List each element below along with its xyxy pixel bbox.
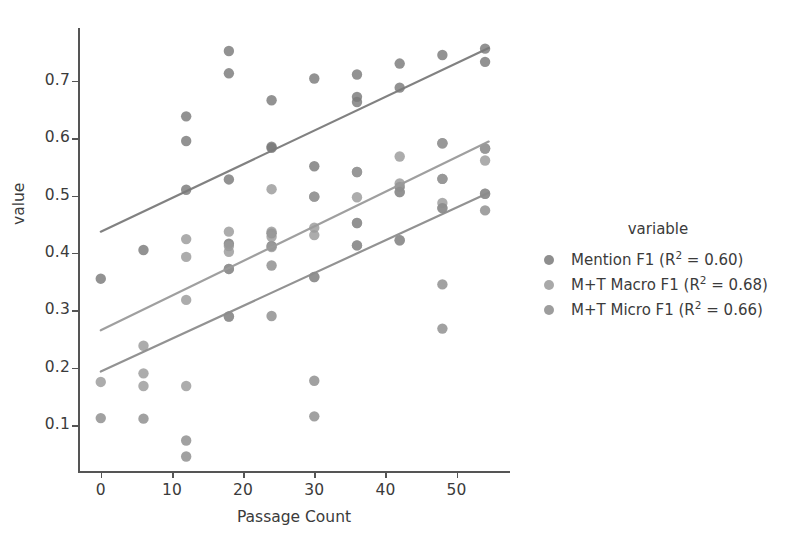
trend-line — [101, 48, 489, 232]
legend: variable Mention F1 (R2 = 0.60)M+T Macro… — [536, 220, 776, 322]
legend-item-1[interactable]: M+T Macro F1 (R2 = 0.68) — [536, 272, 776, 297]
data-point — [437, 138, 447, 148]
data-point — [181, 234, 191, 244]
legend-item-label: M+T Micro F1 (R2 = 0.66) — [571, 301, 763, 319]
data-point — [309, 73, 319, 83]
data-point — [224, 174, 234, 184]
data-point — [352, 167, 362, 177]
x-tick-label: 50 — [427, 481, 487, 499]
legend-marker-icon — [544, 305, 554, 315]
y-tick-label: 0.2 — [10, 358, 70, 376]
legend-item-0[interactable]: Mention F1 (R2 = 0.60) — [536, 247, 776, 272]
y-tick-label: 0.5 — [10, 186, 70, 204]
data-point — [224, 46, 234, 56]
legend-marker-icon — [544, 280, 554, 290]
x-tick-label: 0 — [71, 481, 131, 499]
data-point — [266, 232, 276, 242]
data-point — [266, 184, 276, 194]
y-tick-label: 0.6 — [10, 128, 70, 146]
data-point — [138, 368, 148, 378]
x-tick-mark — [172, 472, 174, 478]
x-tick-mark — [314, 472, 316, 478]
data-point — [138, 381, 148, 391]
data-point — [266, 260, 276, 270]
trend-line — [101, 142, 489, 331]
y-tick-label: 0.3 — [10, 300, 70, 318]
data-point — [181, 381, 191, 391]
data-point — [181, 435, 191, 445]
x-tick-label: 20 — [213, 481, 273, 499]
data-point — [352, 218, 362, 228]
data-point — [138, 413, 148, 423]
data-point — [309, 376, 319, 386]
x-tick-mark — [457, 472, 459, 478]
data-point — [309, 191, 319, 201]
x-tick-label: 10 — [142, 481, 202, 499]
plot-area — [78, 28, 510, 472]
y-tick-label: 0.4 — [10, 243, 70, 261]
x-tick-label: 40 — [355, 481, 415, 499]
data-point — [96, 273, 106, 283]
data-point — [224, 247, 234, 257]
data-point — [266, 95, 276, 105]
data-point — [309, 411, 319, 421]
data-point — [352, 97, 362, 107]
data-point — [437, 174, 447, 184]
data-point — [437, 50, 447, 60]
data-point — [394, 151, 404, 161]
data-point — [352, 69, 362, 79]
x-tick-label: 30 — [284, 481, 344, 499]
data-point — [181, 451, 191, 461]
legend-item-label: Mention F1 (R2 = 0.60) — [571, 251, 743, 269]
data-point — [309, 230, 319, 240]
scatter-canvas — [78, 28, 510, 472]
x-tick-mark — [385, 472, 387, 478]
data-point — [138, 245, 148, 255]
series-group — [96, 43, 491, 283]
x-tick-mark — [101, 472, 103, 478]
scatter-plot-figure: value 0.10.20.30.40.50.60.701020304050 P… — [0, 0, 786, 553]
series-group — [96, 187, 491, 462]
data-point — [352, 240, 362, 250]
data-point — [96, 377, 106, 387]
data-point — [437, 279, 447, 289]
data-point — [394, 187, 404, 197]
data-point — [181, 111, 191, 121]
data-point — [224, 226, 234, 236]
legend-item-2[interactable]: M+T Micro F1 (R2 = 0.66) — [536, 297, 776, 322]
legend-item-label: M+T Macro F1 (R2 = 0.68) — [571, 276, 768, 294]
data-point — [181, 136, 191, 146]
data-point — [352, 192, 362, 202]
legend-title: variable — [550, 220, 766, 238]
series-group — [96, 138, 491, 391]
data-point — [437, 323, 447, 333]
data-point — [394, 235, 404, 245]
data-point — [309, 161, 319, 171]
data-point — [480, 205, 490, 215]
legend-marker-icon — [544, 255, 554, 265]
y-tick-label: 0.1 — [10, 415, 70, 433]
data-point — [480, 57, 490, 67]
data-point — [480, 155, 490, 165]
trend-line — [101, 193, 489, 372]
x-axis-title: Passage Count — [78, 508, 510, 526]
data-point — [224, 68, 234, 78]
legend-entries: Mention F1 (R2 = 0.60)M+T Macro F1 (R2 =… — [536, 247, 776, 322]
y-tick-label: 0.7 — [10, 71, 70, 89]
data-point — [181, 252, 191, 262]
data-point — [181, 295, 191, 305]
data-point — [394, 58, 404, 68]
data-point — [266, 311, 276, 321]
data-point — [96, 413, 106, 423]
x-tick-mark — [243, 472, 245, 478]
